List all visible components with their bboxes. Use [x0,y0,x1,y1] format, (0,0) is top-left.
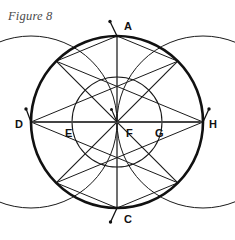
figure-canvas: Figure 8 [0,0,235,240]
point-label-f: F [126,127,133,139]
tick-dot-c-icon [109,220,112,223]
point-label-d: D [15,118,23,130]
chord-h-nw [56,61,203,122]
chord-c-se [117,183,178,208]
chord-c-sw [56,183,117,208]
chord-a-nw [56,36,117,61]
tick-dot-a-icon [108,20,111,23]
point-label-h: H [209,118,217,130]
tick-at-c-icon [111,208,117,221]
point-label-c: C [124,213,132,225]
chord-a-ne [117,36,178,61]
point-label-g: G [155,127,164,139]
tick-dot-h-icon [207,107,210,110]
geometry-diagram: A C D H E F G [0,0,235,240]
tick-dot-f-icon [110,108,113,111]
point-label-a: A [124,20,132,32]
tick-at-a-icon [111,23,118,37]
tick-dot-d-icon [24,107,27,110]
point-label-e: E [65,127,72,139]
chord-d-ne [31,61,178,122]
